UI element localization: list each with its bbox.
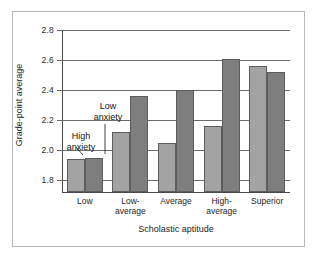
bar [130,96,148,192]
bar [158,143,176,193]
x-tick-label: Superior [237,197,297,207]
y-tick-label: 1.8 [22,176,54,185]
y-tick-mark [57,90,62,91]
bar [85,158,103,193]
x-axis-line [62,192,290,193]
bar [204,126,222,192]
y-tick-mark [57,120,62,121]
y-tick-label: 2.0 [22,146,54,155]
bar [176,90,194,192]
y-tick-label: 2.6 [22,56,54,65]
y-tick-mark [57,180,62,181]
chart-figure: 2.82.62.42.22.01.8 LowLow- averageAverag… [0,0,317,260]
gridline [62,30,290,31]
y-tick-label: 2.8 [22,26,54,35]
bar [267,72,285,192]
y-tick-mark [57,60,62,61]
bar [249,66,267,192]
bar [67,159,85,192]
y-axis-title: Grade-point average [14,55,24,155]
y-tick-label: 2.2 [22,116,54,125]
annotation-low-anxiety: Low anxiety [84,101,132,122]
bar [112,132,130,192]
bar [222,59,240,193]
x-axis-title: Scholastic aptitude [62,224,290,234]
y-tick-label: 2.4 [22,86,54,95]
y-tick-mark [57,30,62,31]
annotation-high-anxiety: High anxiety [56,131,106,152]
gridline [62,60,290,61]
